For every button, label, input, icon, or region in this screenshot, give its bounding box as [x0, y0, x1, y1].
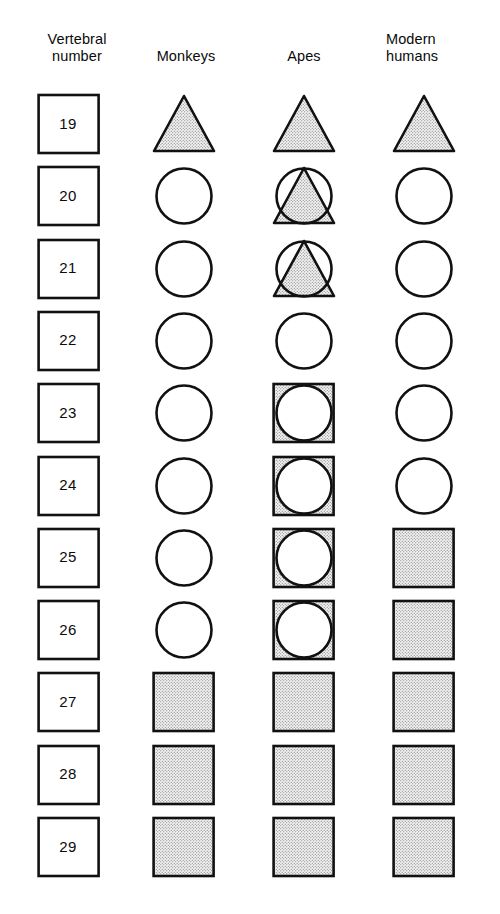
- figure-row: 29: [0, 816, 500, 878]
- square-icon: [271, 744, 337, 806]
- circle-icon: [271, 310, 337, 372]
- circle-icon: [391, 455, 457, 517]
- figure-row: 21: [0, 238, 500, 300]
- monkeys-cell: [151, 816, 217, 878]
- square-icon: [391, 527, 457, 589]
- circle-on-triangle-icon: [271, 238, 337, 300]
- circle-icon: [391, 238, 457, 300]
- apes-cell: [271, 382, 337, 444]
- triangle-icon: [391, 93, 457, 155]
- circle-on-square-icon: [271, 527, 337, 589]
- modern-humans-cell: [391, 93, 457, 155]
- monkeys-cell: [151, 238, 217, 300]
- vertebral-number-box: 24: [36, 455, 102, 517]
- vertebral-number-box: 28: [36, 744, 102, 806]
- vertebral-number-box: 20: [36, 165, 102, 227]
- square-icon: [391, 816, 457, 878]
- square-icon: [151, 671, 217, 733]
- column-header-apes: Apes: [272, 48, 336, 65]
- vertebral-number-box: 21: [36, 238, 102, 300]
- vertebral-number-box: 19: [36, 93, 102, 155]
- figure-row: 26: [0, 599, 500, 661]
- square-icon: [151, 744, 217, 806]
- circle-icon: [391, 382, 457, 444]
- monkeys-cell: [151, 310, 217, 372]
- triangle-icon: [271, 93, 337, 155]
- monkeys-cell: [151, 599, 217, 661]
- modern-humans-cell: [391, 455, 457, 517]
- circle-icon: [151, 165, 217, 227]
- monkeys-cell: [151, 671, 217, 733]
- apes-cell: [271, 599, 337, 661]
- circle-on-square-icon: [271, 599, 337, 661]
- modern-humans-cell: [391, 599, 457, 661]
- monkeys-cell: [151, 455, 217, 517]
- apes-cell: [271, 93, 337, 155]
- monkeys-cell: [151, 165, 217, 227]
- circle-icon: [151, 382, 217, 444]
- square-icon: [391, 744, 457, 806]
- apes-cell: [271, 816, 337, 878]
- vertebral-number-box: 23: [36, 382, 102, 444]
- figure-row: 19: [0, 93, 500, 155]
- triangle-icon: [151, 93, 217, 155]
- figure-row: 25: [0, 527, 500, 589]
- modern-humans-cell: [391, 382, 457, 444]
- circle-on-square-icon: [271, 455, 337, 517]
- figure-row: 28: [0, 744, 500, 806]
- modern-humans-cell: [391, 816, 457, 878]
- vertebral-number-box: 26: [36, 599, 102, 661]
- modern-humans-cell: [391, 310, 457, 372]
- figure-row: 27: [0, 671, 500, 733]
- vertebral-number-box: 25: [36, 527, 102, 589]
- modern-humans-cell: [391, 238, 457, 300]
- figure-row: 20: [0, 165, 500, 227]
- vertebral-number-box: 29: [36, 816, 102, 878]
- vertebral-morphology-figure: Vertebral number Monkeys Apes Modern hum…: [0, 0, 500, 914]
- vertebral-number-box: 22: [36, 310, 102, 372]
- circle-icon: [151, 310, 217, 372]
- column-header-modern-humans: Modern humans: [386, 31, 486, 65]
- circle-icon: [151, 527, 217, 589]
- apes-cell: [271, 310, 337, 372]
- circle-icon: [391, 310, 457, 372]
- figure-row: 23: [0, 382, 500, 444]
- square-icon: [391, 599, 457, 661]
- apes-cell: [271, 671, 337, 733]
- circle-icon: [391, 165, 457, 227]
- square-icon: [151, 816, 217, 878]
- figure-row: 24: [0, 455, 500, 517]
- square-icon: [271, 816, 337, 878]
- column-header-vertebral-number: Vertebral number: [22, 31, 132, 65]
- column-header-monkeys: Monkeys: [140, 48, 232, 65]
- modern-humans-cell: [391, 744, 457, 806]
- modern-humans-cell: [391, 671, 457, 733]
- square-icon: [391, 671, 457, 733]
- apes-cell: [271, 527, 337, 589]
- apes-cell: [271, 744, 337, 806]
- circle-on-square-icon: [271, 382, 337, 444]
- monkeys-cell: [151, 744, 217, 806]
- circle-on-triangle-icon: [271, 165, 337, 227]
- circle-icon: [151, 599, 217, 661]
- monkeys-cell: [151, 527, 217, 589]
- apes-cell: [271, 238, 337, 300]
- circle-icon: [151, 238, 217, 300]
- apes-cell: [271, 165, 337, 227]
- modern-humans-cell: [391, 165, 457, 227]
- circle-icon: [151, 455, 217, 517]
- modern-humans-cell: [391, 527, 457, 589]
- monkeys-cell: [151, 382, 217, 444]
- square-icon: [271, 671, 337, 733]
- figure-row: 22: [0, 310, 500, 372]
- vertebral-number-box: 27: [36, 671, 102, 733]
- apes-cell: [271, 455, 337, 517]
- monkeys-cell: [151, 93, 217, 155]
